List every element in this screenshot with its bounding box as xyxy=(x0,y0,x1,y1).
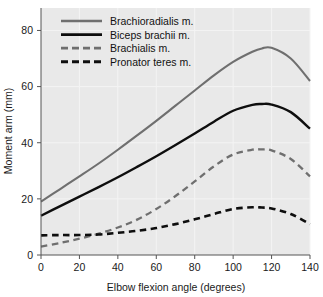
y-tick-label: 0 xyxy=(27,249,33,261)
x-tick-label: 40 xyxy=(112,261,124,273)
x-tick-label: 80 xyxy=(189,261,201,273)
x-tick-label: 20 xyxy=(74,261,86,273)
legend-label-pronator-teres-m: Pronator teres m. xyxy=(110,56,191,68)
x-tick-label: 120 xyxy=(263,261,281,273)
legend-label-brachialis-m: Brachialis m. xyxy=(110,42,170,54)
y-tick-label: 60 xyxy=(21,80,33,92)
x-tick-label: 140 xyxy=(301,261,319,273)
x-tick-label: 60 xyxy=(150,261,162,273)
x-tick-label: 100 xyxy=(224,261,242,273)
y-tick-label: 80 xyxy=(21,24,33,36)
x-axis-title: Elbow flexion angle (degrees) xyxy=(107,281,245,293)
y-axis-title: Moment arm (mm) xyxy=(2,88,14,174)
chart-figure: 020406080100120140 020406080 Elbow flexi… xyxy=(0,0,323,297)
x-tick-label: 0 xyxy=(38,261,44,273)
legend-label-biceps-brachii-m: Biceps brachii m. xyxy=(110,29,190,41)
legend-label-brachioradialis-m: Brachioradialis m. xyxy=(110,15,193,27)
moment-arm-line-chart: 020406080100120140 020406080 Elbow flexi… xyxy=(0,0,323,297)
y-tick-label: 20 xyxy=(21,193,33,205)
plot-area-background xyxy=(41,8,310,255)
y-tick-label: 40 xyxy=(21,137,33,149)
